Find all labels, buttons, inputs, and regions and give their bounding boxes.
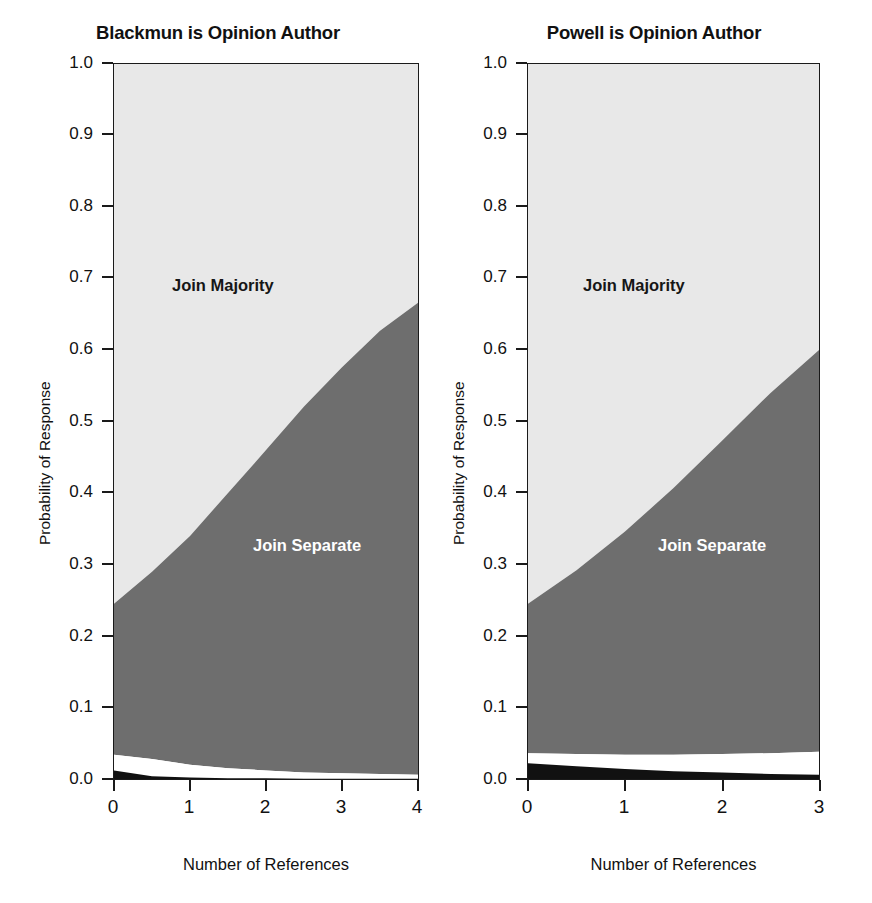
ylabel-0.8-powell: 0.8 bbox=[459, 196, 507, 216]
xtick-3-powell bbox=[819, 780, 821, 791]
ytick-0.2-powell bbox=[516, 635, 527, 637]
xlabel-3-blackmun: 3 bbox=[316, 796, 366, 818]
panel-powell: Powell is Opinion Author Join Majority J… bbox=[436, 0, 872, 903]
ylabel-0.9-powell: 0.9 bbox=[459, 124, 507, 144]
ytick-0.9-powell bbox=[516, 133, 527, 135]
yaxis-title-blackmun: Probability of Response bbox=[36, 381, 54, 545]
ytick-0.6-blackmun bbox=[102, 348, 113, 350]
xtick-1-blackmun bbox=[189, 780, 191, 791]
plot-svg-blackmun bbox=[114, 64, 418, 779]
ytick-0.9-blackmun bbox=[102, 133, 113, 135]
plot-area-powell: Join Majority Join Separate bbox=[527, 63, 820, 780]
ylabel-0.3-blackmun: 0.3 bbox=[45, 554, 93, 574]
ytick-1.0-powell bbox=[516, 62, 527, 64]
xtick-2-blackmun bbox=[265, 780, 267, 791]
ylabel-0.7-powell: 0.7 bbox=[459, 267, 507, 287]
ytick-0.7-blackmun bbox=[102, 276, 113, 278]
xlabel-4-blackmun: 4 bbox=[392, 796, 442, 818]
xlabel-2-powell: 2 bbox=[697, 796, 747, 818]
ytick-0.1-powell bbox=[516, 706, 527, 708]
ylabel-0.6-blackmun: 0.6 bbox=[45, 339, 93, 359]
xlabel-2-blackmun: 2 bbox=[240, 796, 290, 818]
yaxis-title-powell: Probability of Response bbox=[450, 381, 468, 545]
ylabel-0.2-blackmun: 0.2 bbox=[45, 626, 93, 646]
ylabel-0.3-powell: 0.3 bbox=[459, 554, 507, 574]
ylabel-0.0-powell: 0.0 bbox=[459, 769, 507, 789]
xlabel-1-powell: 1 bbox=[599, 796, 649, 818]
ytick-0.7-powell bbox=[516, 276, 527, 278]
ytick-0.2-blackmun bbox=[102, 635, 113, 637]
ytick-0.0-blackmun bbox=[102, 778, 113, 780]
xtick-3-blackmun bbox=[341, 780, 343, 791]
xtick-0-blackmun bbox=[113, 780, 115, 791]
ytick-1.0-blackmun bbox=[102, 62, 113, 64]
stacked-area-figure: Blackmun is Opinion Author Join Majority… bbox=[0, 0, 872, 903]
ylabel-0.1-blackmun: 0.1 bbox=[45, 697, 93, 717]
panel-title-blackmun: Blackmun is Opinion Author bbox=[0, 22, 436, 44]
ytick-0.4-blackmun bbox=[102, 491, 113, 493]
ylabel-0.8-blackmun: 0.8 bbox=[45, 196, 93, 216]
ytick-0.1-blackmun bbox=[102, 706, 113, 708]
panel-blackmun: Blackmun is Opinion Author Join Majority… bbox=[0, 0, 436, 903]
ytick-0.5-blackmun bbox=[102, 420, 113, 422]
xaxis-title-powell: Number of References bbox=[527, 855, 820, 874]
xlabel-0-blackmun: 0 bbox=[88, 796, 138, 818]
xtick-0-powell bbox=[527, 780, 529, 791]
ytick-0.4-powell bbox=[516, 491, 527, 493]
ylabel-0.9-blackmun: 0.9 bbox=[45, 124, 93, 144]
xaxis-title-blackmun: Number of References bbox=[113, 855, 419, 874]
plot-area-blackmun: Join Majority Join Separate bbox=[113, 63, 419, 780]
ytick-0.3-powell bbox=[516, 563, 527, 565]
ylabel-0.7-blackmun: 0.7 bbox=[45, 267, 93, 287]
xtick-2-powell bbox=[722, 780, 724, 791]
ytick-0.3-blackmun bbox=[102, 563, 113, 565]
ylabel-1.0-blackmun: 1.0 bbox=[45, 53, 93, 73]
plot-svg-powell bbox=[528, 64, 819, 779]
ytick-0.5-powell bbox=[516, 420, 527, 422]
ylabel-0.1-powell: 0.1 bbox=[459, 697, 507, 717]
xlabel-1-blackmun: 1 bbox=[164, 796, 214, 818]
panel-title-powell: Powell is Opinion Author bbox=[436, 22, 872, 44]
xtick-4-blackmun bbox=[417, 780, 419, 791]
xlabel-0-powell: 0 bbox=[502, 796, 552, 818]
ytick-0.8-blackmun bbox=[102, 205, 113, 207]
ytick-0.0-powell bbox=[516, 778, 527, 780]
ylabel-1.0-powell: 1.0 bbox=[459, 53, 507, 73]
xlabel-3-powell: 3 bbox=[794, 796, 844, 818]
ytick-0.8-powell bbox=[516, 205, 527, 207]
ylabel-0.6-powell: 0.6 bbox=[459, 339, 507, 359]
ytick-0.6-powell bbox=[516, 348, 527, 350]
ylabel-0.0-blackmun: 0.0 bbox=[45, 769, 93, 789]
xtick-1-powell bbox=[624, 780, 626, 791]
ylabel-0.2-powell: 0.2 bbox=[459, 626, 507, 646]
